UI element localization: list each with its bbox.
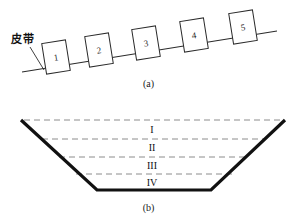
- layer-label-IV: IV: [147, 177, 158, 188]
- caption-b: (b): [0, 202, 297, 213]
- belt-label: 皮带: [11, 30, 35, 46]
- layer-label-I: I: [150, 124, 153, 135]
- belt-box-3: 3: [132, 26, 161, 60]
- belt-box-1: 1: [42, 40, 71, 74]
- layer-label-II: II: [149, 142, 156, 153]
- layer-label-III: III: [147, 160, 157, 171]
- caption-a: (a): [0, 78, 297, 89]
- belt-leader-line: [30, 47, 44, 70]
- belt-box-4: 4: [180, 18, 209, 52]
- belt-box-2: 2: [85, 33, 114, 67]
- belt-box-5: 5: [229, 10, 258, 44]
- figure-root: 1 2 3 4 5 皮带 (a): [0, 0, 297, 224]
